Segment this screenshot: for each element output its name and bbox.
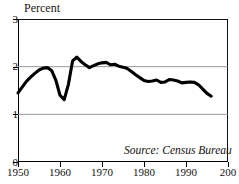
line-series-percent [18,57,211,99]
x-tick-mark-1950 [18,162,19,167]
x-tick-label-1950: 1950 [7,166,29,178]
y-tick-mark-1 [13,114,18,115]
x-tick-label-1990: 1990 [175,166,197,178]
gridlines [18,67,228,115]
chart-figure: Percent 0123 19501960197019801990200 Sou… [0,0,239,184]
x-tick-mark-1970 [102,162,103,167]
x-tick-mark-200 [228,162,229,167]
data-series-group [18,57,211,99]
x-tick-label-1980: 1980 [133,166,155,178]
x-tick-label-1970: 1970 [91,166,113,178]
x-tick-label-200: 200 [220,166,237,178]
x-tick-label-1960: 1960 [49,166,71,178]
x-tick-mark-1960 [60,162,61,167]
y-tick-mark-2 [13,67,18,68]
y-tick-mark-3 [13,19,18,20]
x-tick-mark-1990 [186,162,187,167]
x-tick-mark-1980 [144,162,145,167]
source-annotation: Source: Census Bureau [124,144,232,157]
